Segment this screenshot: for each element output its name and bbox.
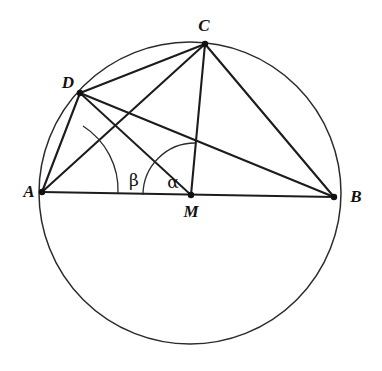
vertex-dot-d [77, 90, 83, 96]
geometry-canvas [0, 0, 382, 371]
angle-label-alpha: α [167, 172, 178, 192]
point-label-d: D [62, 73, 74, 93]
point-label-m: M [183, 202, 198, 222]
point-label-b: B [350, 187, 361, 207]
vertex-dot-a [39, 189, 45, 195]
vertex-dot-c [202, 41, 208, 47]
vertex-dot-b [331, 194, 337, 200]
segment-d-c [80, 44, 205, 93]
vertex-dot-m [188, 192, 194, 198]
point-label-c: C [198, 16, 209, 36]
segment-c-m [191, 44, 205, 195]
point-label-a: A [23, 182, 34, 202]
angle-label-beta: β [129, 170, 139, 190]
angle-arc-beta [83, 126, 118, 193]
segment-a-c [42, 44, 205, 192]
geometry-diagram: A B C D M β α [0, 0, 382, 371]
segment-c-b [205, 44, 334, 197]
